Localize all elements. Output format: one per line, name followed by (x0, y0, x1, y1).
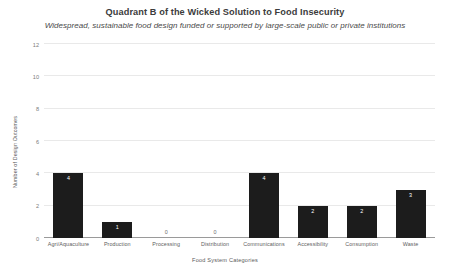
plot-area: 024681012 41004223 (44, 44, 435, 238)
bar-slot: 0 (191, 44, 240, 238)
bar-slot: 2 (288, 44, 337, 238)
bar-value-label: 0 (214, 229, 217, 235)
bar[interactable]: 2 (298, 206, 328, 238)
x-axis-tick-label: Waste (403, 241, 419, 247)
bar[interactable]: 1 (102, 222, 132, 238)
x-axis-tick-labels: Agri/AquacultureProductionProcessingDist… (44, 241, 435, 253)
bar-slot: 4 (240, 44, 289, 238)
bar[interactable]: 2 (347, 206, 377, 238)
y-axis-tick-label: 0 (36, 236, 39, 242)
y-axis-tick-label: 12 (33, 42, 39, 48)
x-axis-tick-label: Agri/Aquaculture (48, 241, 89, 247)
bar-value-label: 4 (53, 175, 83, 181)
bar-value-label: 3 (396, 192, 426, 198)
x-axis-tick-label: Processing (152, 241, 180, 247)
x-axis-tick-label: Accessibility (297, 241, 328, 247)
x-axis-tick-label: Distribution (201, 241, 229, 247)
y-axis-tick-label: 2 (36, 203, 39, 209)
y-axis-tick-label: 6 (36, 139, 39, 145)
y-axis-title-label: Number of Design Outcomes (12, 116, 18, 188)
bar-value-label: 4 (249, 175, 279, 181)
bar-value-label: 2 (347, 208, 377, 214)
x-axis-title: Food System Categories (0, 257, 450, 263)
bar[interactable]: 4 (249, 173, 279, 238)
y-axis-tick-label: 10 (33, 74, 39, 80)
bar-slot: 2 (337, 44, 386, 238)
x-axis-tick-label: Communications (243, 241, 285, 247)
chart-title: Quadrant B of the Wicked Solution to Foo… (0, 7, 450, 17)
bar-value-label: 2 (298, 208, 328, 214)
y-axis-tick-label: 4 (36, 171, 39, 177)
bar[interactable]: 4 (53, 173, 83, 238)
bar-series: 41004223 (44, 44, 435, 238)
y-axis-title: Number of Design Outcomes (10, 92, 20, 212)
chart-subtitle: Widespread, sustainable food design fund… (0, 21, 450, 30)
y-axis-tick-label: 8 (36, 106, 39, 112)
x-axis-tick-label: Consumption (345, 241, 378, 247)
bar-slot: 0 (142, 44, 191, 238)
bar-slot: 4 (44, 44, 93, 238)
bar-slot: 3 (386, 44, 435, 238)
bar-value-label: 0 (165, 229, 168, 235)
bar[interactable]: 3 (396, 190, 426, 239)
bar-value-label: 1 (102, 224, 132, 230)
bar-slot: 1 (93, 44, 142, 238)
x-axis-tick-label: Production (104, 241, 131, 247)
chart-container: Quadrant B of the Wicked Solution to Foo… (0, 0, 450, 275)
